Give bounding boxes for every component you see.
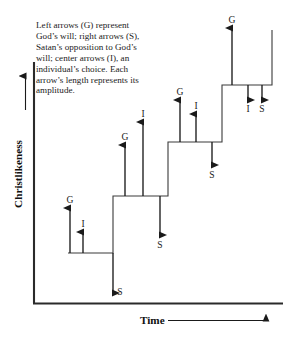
arrow-group-step-4 [232,28,262,100]
arrow-label-s: S [259,103,264,114]
arrow-group-step-1 [70,208,113,293]
figure-container: Left arrows (G) represent God’s will; ri… [0,0,292,339]
arrow-label-g: G [177,86,184,97]
y-axis-label: Christlikeness [12,114,24,234]
x-axis-label: Time [140,314,165,326]
arrow-group-step-2 [125,122,160,235]
arrow-label-i: I [141,108,144,119]
arrow-label-i: I [81,218,84,229]
arrow-label-s: S [117,286,122,297]
arrow-label-i: I [194,100,197,111]
axes [26,62,284,321]
arrow-label-g: G [229,14,236,25]
arrow-label-s: S [209,169,214,180]
figure-caption: Left arrows (G) represent God’s will; ri… [36,20,140,96]
arrow-label-i: I [246,103,249,114]
arrow-label-g: G [67,194,74,205]
arrow-label-g: G [122,131,129,142]
arrow-label-s: S [157,239,162,250]
